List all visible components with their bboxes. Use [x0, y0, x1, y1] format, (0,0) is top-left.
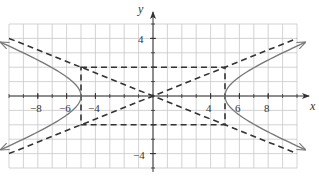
x-tick-label: −6 — [59, 102, 71, 114]
hyperbola-chart: x y −8 −6 −4 4 6 8 4 −4 — [0, 0, 319, 179]
x-tick-label: 6 — [235, 102, 241, 114]
y-axis-label: y — [137, 2, 144, 16]
x-tick-label: −8 — [30, 102, 42, 114]
axes — [9, 12, 309, 172]
x-tick-label: −4 — [88, 102, 100, 114]
y-tick-label: −4 — [133, 149, 145, 161]
x-tick-label: 4 — [206, 102, 212, 114]
x-tick-label: 8 — [264, 102, 270, 114]
y-tick-label: 4 — [138, 33, 144, 45]
x-axis-label: x — [309, 99, 316, 113]
